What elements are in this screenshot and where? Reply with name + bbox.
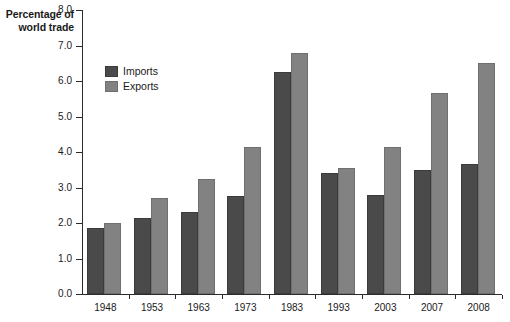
bar-exports-1973 (244, 147, 261, 294)
y-axis-tick (76, 223, 82, 224)
x-axis-tick (175, 295, 176, 299)
bar-exports-1993 (338, 168, 355, 294)
bar-imports-1993 (321, 173, 338, 294)
legend-item-imports: Imports (105, 64, 159, 78)
y-axis-tick (76, 81, 82, 82)
bar-imports-1963 (181, 212, 198, 294)
legend-swatch-exports-icon (105, 81, 118, 92)
y-axis-tick-label: 8.0 (28, 4, 72, 15)
bars-layer (83, 10, 502, 294)
y-axis-tick (76, 117, 82, 118)
bar-exports-1948 (104, 223, 121, 294)
x-axis-tick (455, 295, 456, 299)
legend-swatch-imports-icon (105, 66, 118, 77)
x-axis-line (82, 294, 502, 295)
bar-exports-2007 (431, 93, 448, 294)
y-axis-tick-label: 5.0 (28, 111, 72, 122)
y-axis-tick (76, 188, 82, 189)
bar-group (321, 10, 355, 294)
x-axis-tick (269, 295, 270, 299)
bar-chart: Percentage of world trade 0.01.02.03.04.… (0, 0, 510, 322)
bar-imports-1983 (274, 72, 291, 294)
bar-group (181, 10, 215, 294)
x-axis-tick (222, 295, 223, 299)
y-axis-tick (76, 259, 82, 260)
y-axis-tick-label: 1.0 (28, 253, 72, 264)
y-axis-tick-label: 7.0 (28, 40, 72, 51)
bar-imports-1973 (227, 196, 244, 294)
bar-imports-1953 (134, 218, 151, 294)
legend-label-exports: Exports (123, 80, 159, 92)
legend-label-imports: Imports (123, 65, 158, 77)
bar-exports-1983 (291, 53, 308, 294)
bar-group (367, 10, 401, 294)
y-axis-tick-label: 2.0 (28, 217, 72, 228)
y-axis-tick-label: 4.0 (28, 146, 72, 157)
bar-group (274, 10, 308, 294)
bar-exports-1953 (151, 198, 168, 294)
y-axis-tick (76, 152, 82, 153)
bar-group (227, 10, 261, 294)
chart-legend: Imports Exports (105, 64, 159, 94)
x-axis-tick (315, 295, 316, 299)
bar-imports-2007 (414, 170, 431, 294)
bar-imports-2008 (461, 164, 478, 294)
legend-item-exports: Exports (105, 79, 159, 93)
bar-group (87, 10, 121, 294)
bar-group (461, 10, 495, 294)
x-axis-tick (409, 295, 410, 299)
x-axis-tick (502, 295, 503, 299)
x-axis-tick (129, 295, 130, 299)
y-axis-tick-label: 6.0 (28, 75, 72, 86)
y-axis-tick-label: 3.0 (28, 182, 72, 193)
bar-group (414, 10, 448, 294)
bar-imports-1948 (87, 228, 104, 294)
y-axis-tick (76, 294, 82, 295)
bar-exports-2003 (384, 147, 401, 294)
x-axis-tick-label: 2008 (451, 302, 507, 313)
x-axis-tick (362, 295, 363, 299)
bar-imports-2003 (367, 195, 384, 294)
bar-exports-2008 (478, 63, 495, 294)
y-axis-tick (76, 10, 82, 11)
y-axis-tick (76, 46, 82, 47)
bar-exports-1963 (198, 179, 215, 294)
y-axis-labels: 0.01.02.03.04.05.06.07.08.0 (28, 0, 72, 322)
y-axis-tick-label: 0.0 (28, 288, 72, 299)
bar-group (134, 10, 168, 294)
